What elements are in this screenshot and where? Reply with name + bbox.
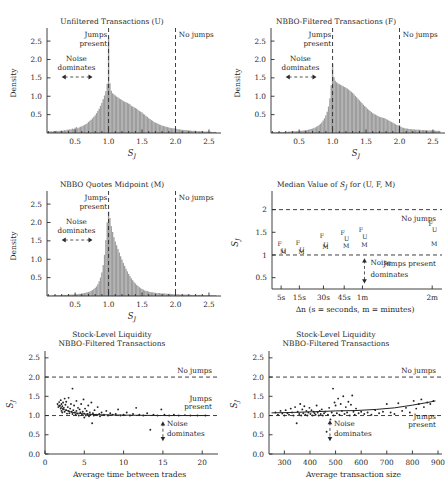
svg-text:SJ: SJ (5, 399, 17, 408)
sj-axis-label: SJ (229, 399, 241, 408)
panel-midpoint: NBBO Quotes Midpoint (M) 0.51.01.52.02.5… (0, 163, 224, 326)
y-tick-label: 2.5 (252, 353, 264, 362)
arrow-up-icon (161, 421, 166, 425)
annotation-no-jumps: No jumps (401, 366, 436, 375)
median-marker-F: F (277, 240, 282, 247)
annotation-dominates: dominates (167, 429, 205, 438)
x-tick-label: 2.5 (427, 137, 439, 146)
x-tick-label: 1.0 (103, 137, 115, 146)
y-tick-label: 1.5 (30, 236, 42, 245)
y-tick-label: 1.0 (30, 255, 42, 264)
x-tick-label: 1.0 (103, 300, 115, 309)
x-tick-label: 2.0 (170, 137, 182, 146)
y-axis-label: Density (9, 68, 18, 98)
y-axis-label: Density (9, 231, 18, 261)
annotation-dominates: dominates (370, 270, 408, 279)
y-tick-label: 1.5 (28, 392, 40, 401)
annotation-jumps-2: present (408, 420, 436, 429)
annotation-jumps-present: Jumps (308, 30, 332, 39)
arrow-right-icon (89, 238, 93, 243)
figure-root: Unfiltered Transactions (U) 0.51.01.52.0… (0, 0, 448, 490)
annotation-noise: Noise (167, 419, 188, 428)
y-tick-label: 1.0 (28, 411, 40, 420)
panel-nbbo-filtered: NBBO-Filtered Transactions (F) 0.51.01.5… (224, 0, 448, 163)
annotation-dominates: dominates (334, 429, 372, 438)
svg-text:SJ: SJ (128, 148, 137, 160)
median-marker-M: M (280, 248, 287, 255)
annotation-jumps-present-2: present (303, 39, 331, 48)
x-tick-label: 30s (317, 293, 330, 302)
panel-liquidity-size: Stock-Level Liquidity NBBO-Filtered Tran… (224, 326, 448, 490)
median-marker-M: M (431, 240, 438, 247)
x-tick-label: 15 (158, 458, 168, 467)
x-tick-label: 1m (357, 293, 369, 302)
y-tick-label: 1 (262, 251, 267, 260)
y-tick-label: 0.5 (30, 273, 42, 282)
x-tick-label: 5s (277, 293, 286, 302)
x-tick-label: 2.0 (170, 300, 182, 309)
annotation-noise: Noise (290, 54, 311, 63)
annotation-dominates: dominates (58, 226, 96, 235)
panel-liquidity-size-plot: 0.00.51.01.52.02.5300400500600700800900S… (224, 326, 448, 490)
x-tick-label: 700 (380, 458, 394, 467)
arrow-left-icon (286, 75, 290, 80)
y-tick-label: 2.5 (30, 37, 42, 46)
y-tick-label: 0.5 (255, 273, 267, 282)
y-tick-label: 1.5 (252, 392, 264, 401)
annotation-no-jumps: No jumps (179, 193, 214, 202)
y-tick-label: 1.5 (255, 228, 267, 237)
y-tick-label: 2.0 (30, 218, 42, 227)
y-tick-label: 2.0 (28, 373, 40, 382)
arrow-down-icon (161, 437, 166, 441)
y-tick-label: 2.0 (30, 55, 42, 64)
x-tick-label: 10 (119, 458, 129, 467)
panel-unfiltered: Unfiltered Transactions (U) 0.51.01.52.0… (0, 0, 224, 163)
arrow-down-icon (328, 437, 333, 441)
median-marker-F: F (359, 226, 364, 233)
arrow-right-icon (313, 75, 317, 80)
x-tick-label: 500 (329, 458, 343, 467)
y-tick-label: 0.0 (28, 450, 40, 459)
arrow-up-icon (362, 258, 367, 262)
arrow-left-icon (62, 238, 66, 243)
sj-axis-label: SJ (352, 148, 361, 160)
histogram-bars (48, 37, 217, 133)
histogram-bars (272, 64, 441, 133)
annotation-no-jumps: No jumps (179, 30, 214, 39)
y-tick-label: 0.5 (252, 430, 264, 439)
annotation-jumps-present: Jumps (84, 193, 108, 202)
annotation-no-jumps: No jumps (177, 366, 212, 375)
median-marker-M: M (361, 241, 368, 248)
y-tick-label: 1.0 (254, 92, 266, 101)
arrow-left-icon (62, 75, 66, 80)
x-tick-label: 5 (82, 458, 87, 467)
median-marker-M: M (298, 248, 305, 255)
median-marker-F: F (341, 229, 346, 236)
x-axis-label: Δn (s = seconds, m = minutes) (296, 305, 415, 314)
annotation-dominates: dominates (58, 63, 96, 72)
median-marker-U: U (432, 226, 437, 233)
x-tick-label: 1.5 (136, 300, 148, 309)
y-tick-label: 2.0 (254, 55, 266, 64)
panel-liquidity-size-title: Stock-Level Liquidity NBBO-Filtered Tran… (224, 331, 448, 348)
x-tick-label: 15s (293, 293, 306, 302)
panel-midpoint-title: NBBO Quotes Midpoint (M) (0, 181, 224, 190)
x-tick-label: 20 (198, 458, 208, 467)
x-axis-label: Average time between trades (72, 470, 186, 479)
x-tick-label: 1.5 (136, 137, 148, 146)
x-tick-label: 600 (354, 458, 368, 467)
y-tick-label: 0.5 (28, 430, 40, 439)
x-tick-label: 0.5 (69, 300, 81, 309)
y-tick-label: 0.5 (254, 110, 266, 119)
annotation-dominates: dominates (282, 63, 320, 72)
x-tick-label: 1.5 (360, 137, 372, 146)
median-marker-M: M (343, 242, 350, 249)
arrow-right-icon (89, 75, 93, 80)
annotation-jumps-present: Jumps (84, 30, 108, 39)
x-tick-label: 45s (338, 293, 351, 302)
annotation-jumps-present-2: present (79, 39, 107, 48)
fit-curve (272, 401, 436, 413)
annotation-jumps-2: present (184, 402, 212, 411)
y-tick-label: 1.5 (30, 73, 42, 82)
x-tick-label: 400 (303, 458, 317, 467)
